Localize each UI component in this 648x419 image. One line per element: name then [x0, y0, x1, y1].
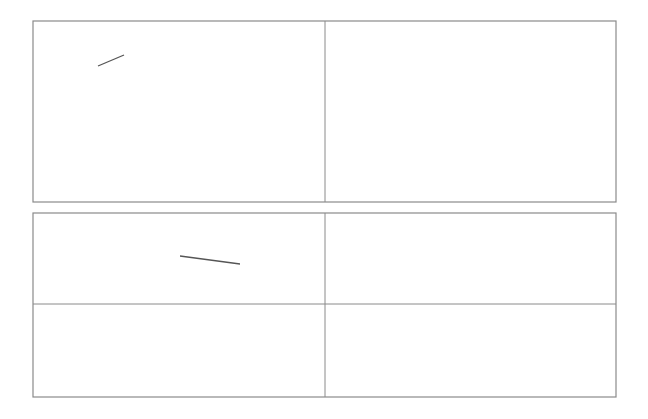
top-label-leader-line — [98, 55, 124, 66]
bottom-panel — [33, 213, 616, 397]
figure-canvas — [0, 0, 648, 419]
bottom-label-leader-line — [180, 256, 240, 264]
top-panel — [33, 21, 616, 202]
